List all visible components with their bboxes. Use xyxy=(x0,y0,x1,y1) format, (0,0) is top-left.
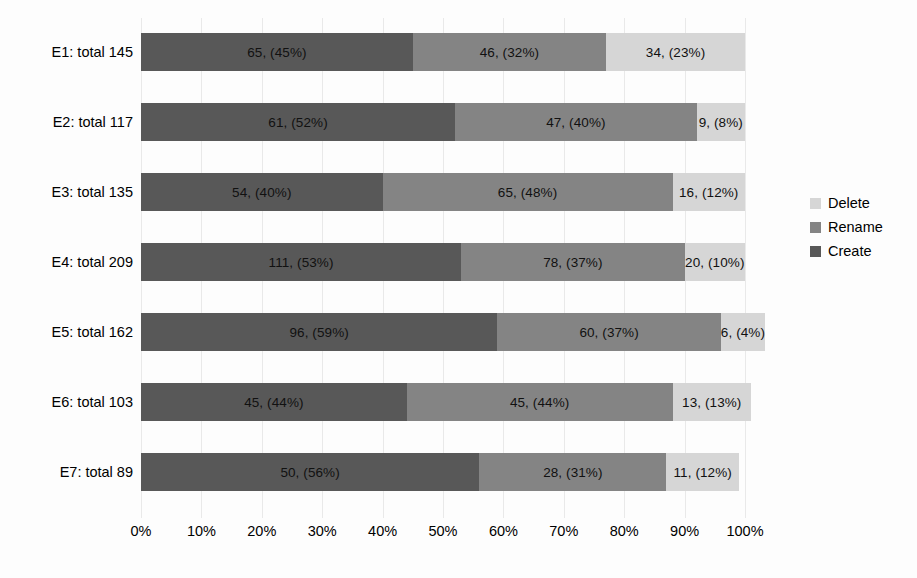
bar-segment-rename: 46, (32%) xyxy=(413,33,606,71)
bar-row: 50, (56%)28, (31%)11, (12%) xyxy=(141,453,745,491)
bar-segment-create: 65, (45%) xyxy=(141,33,413,71)
bar-row: 45, (44%)45, (44%)13, (13%) xyxy=(141,383,745,421)
bar-segment-rename: 78, (37%) xyxy=(461,243,684,281)
x-tick-label: 60% xyxy=(489,523,518,539)
category-label: E4: total 209 xyxy=(5,254,133,270)
x-tick-label: 0% xyxy=(131,523,152,539)
x-tick-label: 100% xyxy=(726,523,763,539)
x-tick-label: 40% xyxy=(368,523,397,539)
bar-segment-create: 45, (44%) xyxy=(141,383,407,421)
category-label: E5: total 162 xyxy=(5,324,133,340)
bar-row: 54, (40%)65, (48%)16, (12%) xyxy=(141,173,745,211)
bar-segment-delete: 34, (23%) xyxy=(606,33,745,71)
stacked-bar-chart: E1: total 145E2: total 117E3: total 135E… xyxy=(0,0,917,578)
plot-area: 65, (45%)46, (32%)34, (23%)61, (52%)47, … xyxy=(141,18,745,518)
bar-segment-delete: 11, (12%) xyxy=(666,453,738,491)
chart-legend: DeleteRenameCreate xyxy=(810,192,910,264)
category-label: E6: total 103 xyxy=(5,394,133,410)
gridline-100% xyxy=(745,18,746,518)
legend-swatch-icon xyxy=(810,222,821,233)
bar-segment-delete: 13, (13%) xyxy=(673,383,752,421)
x-tick-label: 10% xyxy=(187,523,216,539)
bar-segment-create: 54, (40%) xyxy=(141,173,383,211)
category-label: E7: total 89 xyxy=(5,464,133,480)
bar-segment-create: 50, (56%) xyxy=(141,453,479,491)
bar-segment-create: 61, (52%) xyxy=(141,103,455,141)
legend-swatch-icon xyxy=(810,246,821,257)
legend-label: Create xyxy=(828,243,872,259)
x-tick-label: 50% xyxy=(428,523,457,539)
x-tick-label: 20% xyxy=(247,523,276,539)
bar-segment-rename: 45, (44%) xyxy=(407,383,673,421)
category-label: E2: total 117 xyxy=(5,114,133,130)
legend-item-rename[interactable]: Rename xyxy=(810,216,910,238)
bar-segment-delete: 9, (8%) xyxy=(697,103,745,141)
legend-item-create[interactable]: Create xyxy=(810,240,910,262)
x-tick-label: 80% xyxy=(610,523,639,539)
bar-segment-delete: 16, (12%) xyxy=(673,173,745,211)
bar-segment-rename: 28, (31%) xyxy=(479,453,666,491)
bar-row: 111, (53%)78, (37%)20, (10%) xyxy=(141,243,745,281)
category-label: E1: total 145 xyxy=(5,44,133,60)
bar-row: 96, (59%)60, (37%)6, (4%) xyxy=(141,313,745,351)
legend-item-delete[interactable]: Delete xyxy=(810,192,910,214)
legend-swatch-icon xyxy=(810,198,821,209)
bar-segment-rename: 60, (37%) xyxy=(497,313,720,351)
category-label: E3: total 135 xyxy=(5,184,133,200)
category-axis: E1: total 145E2: total 117E3: total 135E… xyxy=(0,18,133,518)
bar-row: 65, (45%)46, (32%)34, (23%) xyxy=(141,33,745,71)
bar-row: 61, (52%)47, (40%)9, (8%) xyxy=(141,103,745,141)
x-tick-label: 30% xyxy=(308,523,337,539)
x-axis: 0%10%20%30%40%50%60%70%80%90%100% xyxy=(141,523,745,549)
bar-segment-delete: 20, (10%) xyxy=(685,243,745,281)
bar-segment-delete: 6, (4%) xyxy=(721,313,765,351)
bar-segment-rename: 47, (40%) xyxy=(455,103,697,141)
bar-segment-create: 111, (53%) xyxy=(141,243,461,281)
bar-segment-rename: 65, (48%) xyxy=(383,173,673,211)
bar-segment-create: 96, (59%) xyxy=(141,313,497,351)
x-tick-label: 90% xyxy=(670,523,699,539)
legend-label: Rename xyxy=(828,219,883,235)
legend-label: Delete xyxy=(828,195,870,211)
x-tick-label: 70% xyxy=(549,523,578,539)
